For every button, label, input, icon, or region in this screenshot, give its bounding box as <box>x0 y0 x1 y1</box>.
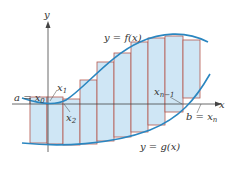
x-axis-label: x <box>219 99 225 110</box>
rectangle-10 <box>183 40 200 98</box>
rectangle-9 <box>165 36 183 112</box>
rectangle-5 <box>97 62 114 141</box>
approximating-rectangles <box>30 36 200 145</box>
riemann-area-between-curves-diagram: y x y = f(x) y = g(x) a = x0 x1 x2 xn−1 … <box>0 0 227 170</box>
label-b-xn: b = xn <box>186 111 218 124</box>
y-axis-arrow-icon <box>46 21 51 28</box>
rectangle-8 <box>148 38 165 125</box>
curve-f-label: y = f(x) <box>103 32 142 43</box>
curve-g-label: y = g(x) <box>139 141 180 152</box>
rectangle-6 <box>114 53 131 137</box>
y-axis-label: y <box>43 9 50 20</box>
rectangle-7 <box>131 42 148 132</box>
rectangle-4 <box>80 80 97 144</box>
label-x1: x1 <box>57 82 67 95</box>
